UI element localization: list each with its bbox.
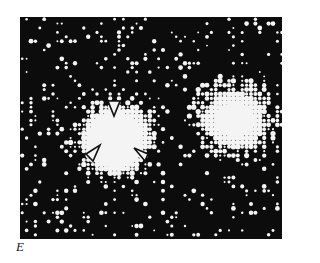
halftone-dot <box>156 162 160 166</box>
halftone-dot <box>218 149 222 153</box>
right-cloud-core <box>215 103 255 137</box>
halftone-dot <box>206 207 209 210</box>
halftone-dot <box>100 35 103 38</box>
halftone-dot <box>73 149 77 153</box>
halftone-dot <box>253 88 257 92</box>
halftone-dot <box>214 233 217 236</box>
halftone-dot <box>43 88 46 91</box>
halftone-dot <box>38 180 41 183</box>
halftone-dot <box>131 194 133 196</box>
halftone-dot <box>245 162 249 166</box>
halftone-dot <box>218 92 223 97</box>
halftone-dot <box>135 61 139 65</box>
halftone-dot <box>60 219 64 223</box>
halftone-dot <box>130 171 135 176</box>
halftone-dot <box>95 171 99 175</box>
halftone-dot <box>148 162 153 167</box>
halftone-dot <box>219 155 221 157</box>
halftone-dot <box>26 203 28 205</box>
halftone-dot <box>232 84 234 86</box>
halftone-dot <box>126 70 129 73</box>
halftone-dot <box>254 18 257 21</box>
halftone-dot <box>175 36 178 39</box>
halftone-dot <box>139 109 143 113</box>
halftone-dot <box>114 181 116 183</box>
halftone-dot <box>26 58 28 60</box>
halftone-dot <box>117 48 121 52</box>
halftone-dot <box>126 172 129 175</box>
halftone-dot <box>34 224 37 227</box>
halftone-dot <box>275 105 279 109</box>
halftone-dot <box>74 79 77 82</box>
halftone-dot <box>210 31 213 34</box>
halftone-dot <box>100 66 104 70</box>
halftone-dot <box>253 211 257 215</box>
halftone-dot <box>262 132 266 136</box>
halftone-dot <box>161 127 165 131</box>
halftone-dot <box>205 105 209 109</box>
halftone-dot <box>276 84 278 86</box>
halftone-dot <box>25 198 28 201</box>
halftone-dot <box>34 145 37 148</box>
halftone-dot <box>55 211 60 216</box>
halftone-dot <box>117 92 120 95</box>
halftone-dot <box>210 198 213 201</box>
halftone-dot <box>210 88 213 91</box>
halftone-dot <box>153 106 156 109</box>
halftone-dot <box>100 172 103 175</box>
halftone-dot <box>64 189 68 194</box>
halftone-dot <box>59 127 64 132</box>
halftone-dot <box>130 96 135 101</box>
halftone-dot <box>213 83 218 88</box>
halftone-dot <box>29 97 32 100</box>
halftone-dot <box>68 140 73 145</box>
halftone-dot <box>113 66 116 69</box>
halftone-dot <box>184 225 186 227</box>
halftone-dot <box>69 224 72 227</box>
halftone-dot <box>240 145 244 149</box>
halftone-dot <box>241 31 244 34</box>
halftone-dot <box>86 118 90 122</box>
halftone-dot <box>21 211 24 214</box>
halftone-dot <box>267 53 270 56</box>
halftone-dot <box>200 144 205 149</box>
halftone-dot <box>104 105 107 108</box>
halftone-dot <box>266 114 270 118</box>
halftone-dot <box>245 189 248 192</box>
halftone-dot <box>262 109 267 114</box>
halftone-dot <box>87 216 90 219</box>
halftone-dot <box>100 40 103 43</box>
halftone-dot <box>70 137 72 139</box>
halftone-dot <box>197 49 199 51</box>
halftone-dot <box>200 83 205 88</box>
halftone-dot <box>188 198 191 201</box>
halftone-dot <box>267 92 271 96</box>
halftone-dot <box>263 75 265 77</box>
halftone-dot <box>272 141 274 143</box>
halftone-dot <box>161 189 165 193</box>
halftone-dot <box>105 88 108 91</box>
halftone-dot <box>262 122 267 127</box>
halftone-dot <box>263 80 265 82</box>
halftone-dot <box>272 194 274 196</box>
halftone-dot <box>125 100 130 105</box>
halftone-dot <box>60 145 64 149</box>
halftone-dot <box>55 228 59 232</box>
halftone-dot <box>263 207 266 210</box>
halftone-dot <box>270 135 275 140</box>
halftone-dot <box>193 62 195 64</box>
halftone-dot <box>74 106 76 108</box>
halftone-dot <box>42 96 47 101</box>
halftone-dot <box>78 132 81 135</box>
halftone-dot <box>144 163 146 165</box>
halftone-dot <box>214 79 218 83</box>
halftone-dot <box>157 150 160 153</box>
halftone-dot <box>105 225 107 227</box>
halftone-dot <box>183 74 188 79</box>
halftone-dot <box>232 203 234 205</box>
halftone-dot <box>52 212 54 214</box>
halftone-dot <box>272 128 274 130</box>
halftone-dot <box>205 153 210 158</box>
halftone-dot <box>218 145 222 149</box>
halftone-dot <box>34 119 36 121</box>
